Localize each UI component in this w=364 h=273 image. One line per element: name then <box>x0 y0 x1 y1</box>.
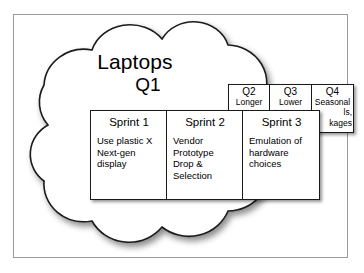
quarter-note: Longer <box>229 97 269 107</box>
sprint-item: Selection <box>173 170 237 182</box>
quarter-note: Seasonal <box>312 97 353 107</box>
cloud-title: Laptops Q1 <box>60 50 210 95</box>
quarter-note: Lower <box>270 97 311 107</box>
quarter-label: Q2 <box>229 86 269 97</box>
sprint-item: Next-gen <box>97 147 161 159</box>
sprint-title: Sprint 1 <box>97 115 161 129</box>
sprint-title: Sprint 2 <box>173 115 237 129</box>
cloud-title-main: Laptops <box>60 50 210 74</box>
sprint-item: Vendor <box>173 135 237 147</box>
cloud-title-sub: Q1 <box>60 74 210 95</box>
sprint-item: choices <box>249 158 314 170</box>
sprint-item: Prototype <box>173 147 237 159</box>
sprint-item: Use plastic X <box>97 135 161 147</box>
sprint-table: Sprint 1 Use plastic X Next-gen display … <box>90 110 320 200</box>
sprint-item: Emulation of <box>249 135 314 147</box>
sprint-title: Sprint 3 <box>249 115 314 129</box>
sprint-item: hardware <box>249 147 314 159</box>
sprint-column-2[interactable]: Sprint 2 Vendor Prototype Drop & Selecti… <box>167 111 243 199</box>
sprint-item: display <box>97 158 161 170</box>
sprint-item: Drop & <box>173 158 237 170</box>
diagram-canvas: Laptops Q1 Q2 Longer Q3 Lower Q4 Seasona… <box>0 0 364 273</box>
sprint-column-1[interactable]: Sprint 1 Use plastic X Next-gen display <box>91 111 167 199</box>
quarter-label: Q4 <box>312 86 353 97</box>
sprint-column-3[interactable]: Sprint 3 Emulation of hardware choices <box>243 111 319 199</box>
quarter-label: Q3 <box>270 86 311 97</box>
